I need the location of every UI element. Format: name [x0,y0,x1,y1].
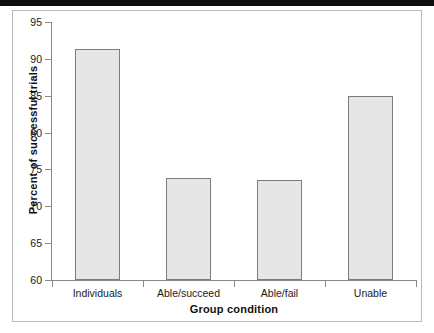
x-tick-mark [416,281,417,287]
y-tick-mark [45,280,51,281]
x-tick-label: Able/fail [234,288,325,299]
x-tick-mark [325,281,326,287]
x-tick-mark [234,281,235,287]
y-tick-mark [45,169,51,170]
x-tick-label: Individuals [52,288,143,299]
x-tick-label: Unable [325,288,416,299]
x-tick-label: Able/succeed [143,288,234,299]
y-tick-mark [45,96,51,97]
y-axis-label: Percent of successful trials [27,15,39,265]
y-tick-mark [45,133,51,134]
x-tick-mark [52,281,53,287]
bar-unable [348,96,393,280]
scan-top-band [0,0,434,6]
bar-able-succeed [166,178,211,280]
bar-individuals [75,49,120,280]
y-tick-mark [45,59,51,60]
y-tick-label: 60 [30,275,42,286]
y-tick-mark [45,243,51,244]
y-tick-mark [45,206,51,207]
y-tick-mark [45,22,51,23]
x-tick-mark [143,281,144,287]
bar-able-fail [257,180,302,280]
chart-figure: 6065707580859095 IndividualsAble/succeed… [0,0,434,333]
x-axis-label: Group condition [52,303,416,315]
plot-area [52,22,416,280]
